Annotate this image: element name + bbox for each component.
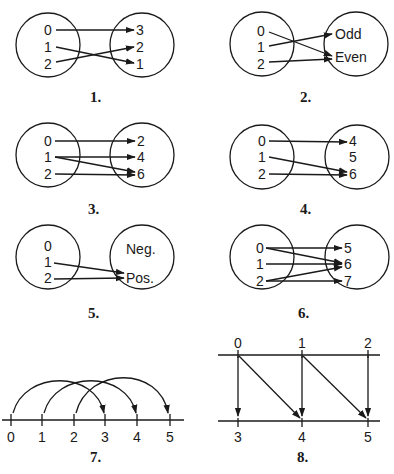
range-label: 6 [344, 256, 352, 272]
range-label: 6 [137, 166, 145, 182]
domain-label: 1 [258, 149, 266, 165]
arrow-2-to-6 [269, 174, 347, 175]
tick-label: 0 [7, 429, 15, 445]
range-label: 2 [136, 39, 144, 55]
domain-label: 1 [257, 39, 265, 55]
range-label: 4 [349, 133, 357, 149]
domain-label: 2 [256, 273, 264, 289]
arrow-2-to-even [269, 59, 332, 62]
top-label: 1 [298, 335, 306, 351]
arrow-0-to-4 [269, 141, 347, 142]
arc-1-to-4 [44, 381, 136, 413]
range-label: Neg. [126, 241, 156, 257]
diagram-1: 0 1 2 3 2 1 1. [16, 13, 174, 105]
domain-label: 0 [44, 238, 52, 254]
diagram-number: 5. [88, 305, 100, 321]
domain-label: 0 [44, 22, 52, 38]
arc-2-to-5 [76, 378, 168, 413]
arrow-0-to-6 [266, 248, 342, 263]
range-label: 1 [136, 56, 144, 72]
diagram-number: 2. [300, 89, 312, 105]
diagram-4: 0 1 2 4 5 6 4. [230, 125, 389, 217]
diagram-number: 1. [90, 89, 102, 105]
arrow-1-to-6 [269, 157, 347, 172]
diagram-number: 3. [88, 201, 100, 217]
top-label: 2 [364, 335, 372, 351]
diagram-number: 8. [297, 449, 309, 465]
bottom-label: 3 [234, 429, 242, 445]
domain-label: 0 [258, 133, 266, 149]
range-label: Even [335, 49, 367, 65]
diagram-3: 0 1 2 2 4 6 3. [16, 123, 174, 217]
domain-label: 2 [44, 56, 52, 72]
tick-label: 2 [70, 429, 78, 445]
range-circle [325, 225, 389, 289]
diagram-7: 0 1 2 3 4 5 7. [2, 378, 184, 465]
domain-label: 0 [256, 240, 264, 256]
tick-label: 4 [133, 429, 141, 445]
top-label: 0 [234, 335, 242, 351]
range-label: 2 [137, 133, 145, 149]
domain-label: 1 [44, 149, 52, 165]
range-label: 5 [349, 149, 357, 165]
range-circle [325, 125, 389, 189]
range-label: 4 [137, 149, 145, 165]
arrow-1-to-6 [55, 157, 135, 172]
range-circle [324, 12, 388, 76]
diagram-number: 4. [300, 201, 312, 217]
bottom-label: 4 [298, 429, 306, 445]
tick-label: 3 [101, 429, 109, 445]
arrow-1-to-5 [303, 356, 366, 418]
range-label: 5 [344, 240, 352, 256]
diagram-number: 6. [298, 305, 310, 321]
tick-label: 1 [38, 429, 46, 445]
range-label: Pos. [126, 270, 154, 286]
range-label: Odd [335, 26, 361, 42]
diagram-2: 0 1 2 Odd Even 2. [230, 12, 388, 105]
domain-label: 0 [257, 23, 265, 39]
range-label: 7 [344, 273, 352, 289]
domain-label: 2 [44, 270, 52, 286]
diagram-number: 7. [90, 449, 102, 465]
domain-label: 2 [258, 166, 266, 182]
arrow-2-to-pos [54, 278, 124, 279]
arrow-1-to-pos [54, 263, 124, 273]
arrow-0-to-4 [239, 356, 300, 418]
arrow-2-to-6 [55, 174, 135, 175]
domain-label: 0 [44, 133, 52, 149]
arc-0-to-3 [13, 381, 104, 413]
range-label: 3 [136, 22, 144, 38]
diagram-5: 0 1 2 Neg. Pos. 5. [16, 225, 174, 321]
domain-label: 1 [44, 254, 52, 270]
tick-label: 5 [166, 429, 174, 445]
bottom-label: 5 [364, 429, 372, 445]
domain-label: 1 [256, 256, 264, 272]
diagram-6: 0 1 2 5 6 7 6. [230, 225, 389, 321]
domain-label: 2 [44, 166, 52, 182]
domain-label: 2 [257, 56, 265, 72]
range-label: 6 [349, 166, 357, 182]
domain-label: 1 [44, 39, 52, 55]
diagram-8: 0 1 2 3 4 5 8. [218, 335, 380, 465]
